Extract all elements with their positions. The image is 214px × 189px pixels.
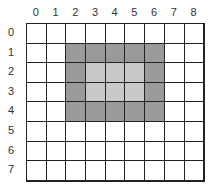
grid-cell-4-7 xyxy=(165,102,185,122)
grid-cell-2-3 xyxy=(86,63,106,83)
grid-cell-0-6 xyxy=(145,24,165,44)
row-label: 4 xyxy=(8,101,14,121)
grid-cell-6-2 xyxy=(66,142,86,162)
grid-cell-1-0 xyxy=(27,44,47,64)
column-label: 5 xyxy=(125,6,145,18)
pixel-grid xyxy=(26,23,205,182)
grid-cell-1-2 xyxy=(66,44,86,64)
grid-cell-4-2 xyxy=(66,102,86,122)
grid-cell-6-6 xyxy=(145,142,165,162)
grid-cell-1-6 xyxy=(145,44,165,64)
grid-cell-3-7 xyxy=(165,83,185,103)
row-label: 6 xyxy=(8,141,14,161)
grid-cell-0-3 xyxy=(86,24,106,44)
grid-cell-0-1 xyxy=(47,24,67,44)
row-label: 7 xyxy=(8,160,14,180)
grid-cell-6-8 xyxy=(185,142,205,162)
grid-cell-4-0 xyxy=(27,102,47,122)
grid-cell-7-1 xyxy=(47,161,67,181)
grid-cell-3-4 xyxy=(106,83,126,103)
grid-cell-7-5 xyxy=(125,161,145,181)
grid-cell-1-4 xyxy=(106,44,126,64)
grid-cell-5-1 xyxy=(47,122,67,142)
grid-cell-4-1 xyxy=(47,102,67,122)
grid-cell-3-1 xyxy=(47,83,67,103)
grid-cell-7-0 xyxy=(27,161,47,181)
grid-cell-4-4 xyxy=(106,102,126,122)
grid-cell-0-8 xyxy=(185,24,205,44)
grid-cell-3-6 xyxy=(145,83,165,103)
grid-cell-7-3 xyxy=(86,161,106,181)
grid-cell-1-8 xyxy=(185,44,205,64)
column-label: 0 xyxy=(26,6,46,18)
grid-cell-2-0 xyxy=(27,63,47,83)
grid-cell-1-5 xyxy=(125,44,145,64)
grid-cell-5-3 xyxy=(86,122,106,142)
grid-cell-6-4 xyxy=(106,142,126,162)
grid-cell-0-5 xyxy=(125,24,145,44)
grid-cell-4-6 xyxy=(145,102,165,122)
grid-cell-4-3 xyxy=(86,102,106,122)
grid-cell-6-7 xyxy=(165,142,185,162)
grid-cell-1-3 xyxy=(86,44,106,64)
row-label: 5 xyxy=(8,121,14,141)
grid-cell-7-4 xyxy=(106,161,126,181)
grid-cell-5-7 xyxy=(165,122,185,142)
row-label: 3 xyxy=(8,82,14,102)
grid-cell-6-0 xyxy=(27,142,47,162)
grid-cell-1-7 xyxy=(165,44,185,64)
grid-cell-3-3 xyxy=(86,83,106,103)
row-label: 0 xyxy=(8,23,14,43)
grid-cell-6-3 xyxy=(86,142,106,162)
grid-cell-2-2 xyxy=(66,63,86,83)
grid-cell-4-5 xyxy=(125,102,145,122)
grid-cell-5-4 xyxy=(106,122,126,142)
grid-cell-2-1 xyxy=(47,63,67,83)
grid-cell-0-2 xyxy=(66,24,86,44)
grid-cell-0-7 xyxy=(165,24,185,44)
grid-cell-2-8 xyxy=(185,63,205,83)
grid-cell-2-6 xyxy=(145,63,165,83)
grid-cell-7-6 xyxy=(145,161,165,181)
column-label: 2 xyxy=(65,6,85,18)
grid-cell-3-2 xyxy=(66,83,86,103)
column-label: 8 xyxy=(184,6,204,18)
grid-cell-3-0 xyxy=(27,83,47,103)
grid-cell-7-8 xyxy=(185,161,205,181)
column-label: 4 xyxy=(105,6,125,18)
grid-cell-5-8 xyxy=(185,122,205,142)
grid-cell-2-7 xyxy=(165,63,185,83)
grid-cell-3-5 xyxy=(125,83,145,103)
column-label: 6 xyxy=(144,6,164,18)
grid-cell-6-1 xyxy=(47,142,67,162)
grid-cell-2-4 xyxy=(106,63,126,83)
grid-cell-4-8 xyxy=(185,102,205,122)
grid-cell-1-1 xyxy=(47,44,67,64)
column-label: 3 xyxy=(85,6,105,18)
grid-cell-0-4 xyxy=(106,24,126,44)
column-label: 1 xyxy=(46,6,66,18)
grid-cell-5-2 xyxy=(66,122,86,142)
row-label: 2 xyxy=(8,62,14,82)
column-label: 7 xyxy=(164,6,184,18)
grid-cell-5-5 xyxy=(125,122,145,142)
grid-cell-5-6 xyxy=(145,122,165,142)
grid-cell-6-5 xyxy=(125,142,145,162)
row-label: 1 xyxy=(8,43,14,63)
grid-cell-7-7 xyxy=(165,161,185,181)
grid-cell-3-8 xyxy=(185,83,205,103)
grid-cell-0-0 xyxy=(27,24,47,44)
grid-cell-7-2 xyxy=(66,161,86,181)
grid-cell-2-5 xyxy=(125,63,145,83)
grid-cell-5-0 xyxy=(27,122,47,142)
